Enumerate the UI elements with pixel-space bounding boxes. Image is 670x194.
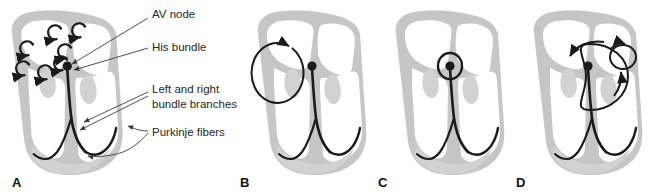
panel-d: D xyxy=(516,11,642,190)
panel-a: AV node His bundle Left and right bundle… xyxy=(12,8,237,190)
panel-letter-c: C xyxy=(378,175,388,190)
label-his-bundle: His bundle xyxy=(152,41,206,53)
label-bundle-branches-line1: Left and right xyxy=(152,83,220,95)
panel-c: C xyxy=(378,11,504,190)
panel-letter-d: D xyxy=(516,175,525,190)
leader-purkinje-upper xyxy=(128,126,148,131)
panel-letter-b: B xyxy=(240,175,249,190)
panel-b: B xyxy=(240,11,366,190)
figure-canvas: AV node His bundle Left and right bundle… xyxy=(0,0,670,194)
panel-letter-a: A xyxy=(12,175,22,190)
label-av-node: AV node xyxy=(152,8,195,20)
label-purkinje-fibers: Purkinje fibers xyxy=(152,126,225,138)
cardiac-conduction-figure: AV node His bundle Left and right bundle… xyxy=(0,0,670,194)
label-bundle-branches-line2: bundle branches xyxy=(152,98,237,110)
